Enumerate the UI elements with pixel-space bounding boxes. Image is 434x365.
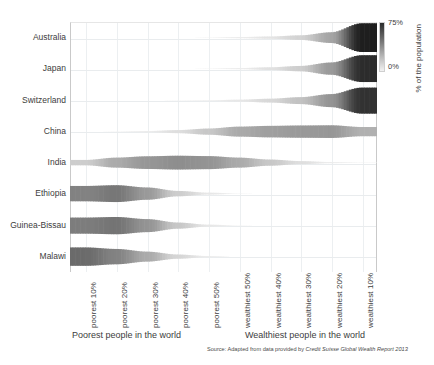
- y-axis-label-malawi: Malawi: [2, 251, 66, 261]
- ribbon-switzerland: [70, 85, 377, 116]
- ribbon-slice: [374, 127, 377, 136]
- x-axis-tick-wealthiest-30-: wealthiest 30%: [304, 273, 313, 328]
- caption-poorest: Poorest people in the world: [72, 330, 181, 340]
- ribbon-india: [70, 147, 377, 178]
- source-citation: Credit Suisse Global Wealth Report 2013: [306, 346, 408, 352]
- ribbon-china: [70, 116, 377, 147]
- ribbon-malawi: [70, 241, 377, 272]
- y-axis-label-china: China: [2, 126, 66, 136]
- source-note: Source: Adapted from data provided by Cr…: [207, 346, 408, 352]
- x-axis-tick-wealthiest-50-: wealthiest 50%: [243, 273, 252, 328]
- x-axis-tick-wealthiest-40-: wealthiest 40%: [274, 273, 283, 328]
- x-axis-tick-poorest-50-: poorest 50%: [212, 282, 221, 328]
- colorbar-gradient: [379, 22, 385, 72]
- ribbon-slice: [374, 55, 377, 82]
- x-axis-tick-poorest-40-: poorest 40%: [181, 282, 190, 328]
- y-axis-label-australia: Australia: [2, 32, 66, 42]
- colorbar-axis-title: % of the population: [414, 24, 423, 93]
- colorbar-tick-bottom: 0%: [388, 62, 399, 71]
- x-axis-tick-wealthiest-10-: wealthiest 10%: [366, 273, 375, 328]
- colorbar-tick-top: 75%: [388, 18, 403, 27]
- y-axis-label-switzerland: Switzerland: [2, 95, 66, 105]
- caption-wealthiest: Wealthiest people in the world: [245, 330, 365, 340]
- ribbon-ethiopia: [70, 178, 377, 209]
- ribbon-japan: [70, 53, 377, 84]
- x-axis-tick-poorest-10-: poorest 10%: [89, 282, 98, 328]
- x-axis-tick-poorest-20-: poorest 20%: [120, 282, 129, 328]
- y-axis-label-india: India: [2, 157, 66, 167]
- x-axis-tick-wealthiest-20-: wealthiest 20%: [335, 273, 344, 328]
- y-axis-label-guinea-bissau: Guinea-Bissau: [2, 220, 66, 230]
- x-axis-tick-poorest-30-: poorest 30%: [151, 282, 160, 328]
- wealth-distribution-chart: AustraliaJapanSwitzerlandChinaIndiaEthio…: [0, 0, 434, 365]
- ribbon-slice: [374, 23, 377, 52]
- ribbon-guinea-bissau: [70, 210, 377, 241]
- y-axis-label-japan: Japan: [2, 63, 66, 73]
- source-prefix: Source: Adapted from data provided by: [207, 346, 306, 352]
- y-axis-label-ethiopia: Ethiopia: [2, 188, 66, 198]
- ribbon-australia: [70, 22, 377, 53]
- ribbon-slice: [374, 87, 377, 113]
